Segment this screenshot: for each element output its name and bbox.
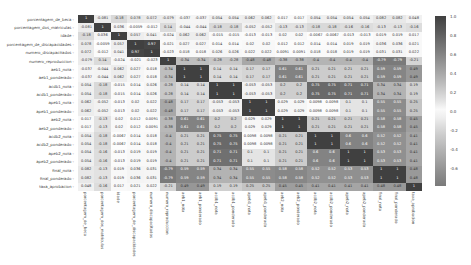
heatmap-cell: -0.013 <box>111 157 127 165</box>
heatmap-cell: 0.02 <box>127 99 143 107</box>
heatmap-cell: 0.17 <box>258 74 274 82</box>
heatmap-cell: -0.13 <box>291 23 307 31</box>
heatmap-cell: 0.52 <box>389 141 405 149</box>
heatmap-cell: 0.21 <box>340 124 356 132</box>
heatmap-cell: 0.61 <box>193 116 209 124</box>
column-label-text: apeb1_ponderado <box>263 192 268 227</box>
heatmap-cell: -0.18 <box>209 23 225 31</box>
heatmap-cell: -0.015 <box>111 90 127 98</box>
heatmap-cell: 0.19 <box>406 82 422 90</box>
heatmap-cell: 1 <box>307 141 323 149</box>
heatmap-cell: 0.59 <box>373 65 389 73</box>
heatmap-cell: 0.41 <box>307 183 323 191</box>
heatmap-cell: 0.0098 <box>324 99 340 107</box>
heatmap-cell: 0.21 <box>340 74 356 82</box>
heatmap-cell: 0.012 <box>275 40 291 48</box>
heatmap-cell: 0.41 <box>340 183 356 191</box>
heatmap-cell: 0.6 <box>340 132 356 140</box>
heatmap-cell: 0.21 <box>275 149 291 157</box>
heatmap-cell: 1 <box>209 82 225 90</box>
heatmap-cell: 0.1 <box>242 157 258 165</box>
heatmap-cell: -0.16 <box>356 23 372 31</box>
heatmap-cell: 0.1 <box>356 107 372 115</box>
column-label: acdb2_ponderado <box>324 192 340 262</box>
heatmap-cell: -0.38 <box>291 57 307 65</box>
heatmap-cell: 0.6 <box>340 141 356 149</box>
heatmap-cell: -0.13 <box>94 124 110 132</box>
heatmap-cell: 0.52 <box>307 166 323 174</box>
heatmap-cell: 0.21 <box>193 149 209 157</box>
heatmap-cell: 1 <box>373 166 389 174</box>
heatmap-cell: 0.019 <box>144 157 160 165</box>
heatmap-cell: 0.019 <box>111 166 127 174</box>
heatmap-cell: 0.012 <box>127 124 143 132</box>
heatmap-cell: 0.041 <box>111 49 127 57</box>
heatmap-cell: 0.036 <box>111 23 127 31</box>
heatmap-cell: 0.018 <box>144 65 160 73</box>
heatmap-cell: 0.022 <box>258 49 274 57</box>
heatmap-cell: 0.014 <box>127 132 143 140</box>
heatmap-cell: 0.59 <box>193 174 209 182</box>
heatmap-cell: 1 <box>160 57 176 65</box>
heatmap-cell: 0.022 <box>144 107 160 115</box>
heatmap-cell: 0.078 <box>78 40 94 48</box>
heatmap-cell: -0.48 <box>160 99 176 107</box>
heatmap-cell: 0.34 <box>373 82 389 90</box>
heatmap-cell: -0.013 <box>111 107 127 115</box>
column-label-text: acdb2_nota <box>313 192 318 215</box>
heatmap-cell: 0.019 <box>340 40 356 48</box>
correlation-heatmap: 1-0.081-0.180.0780.072-0.079-0.037-0.037… <box>78 15 422 191</box>
heatmap-cell: -0.28 <box>160 82 176 90</box>
heatmap-cell: -0.38 <box>275 57 291 65</box>
heatmap-cell: -0.052 <box>94 107 110 115</box>
heatmap-cell: -0.13 <box>389 23 405 31</box>
heatmap-cell: 0.71 <box>209 157 225 165</box>
heatmap-cell: 1 <box>373 174 389 182</box>
heatmap-cell: -0.079 <box>160 15 176 23</box>
heatmap-cell: -0.38 <box>160 116 176 124</box>
heatmap-cell: 0.58 <box>389 116 405 124</box>
column-label-text: porcentagem_dos_matriculas <box>100 192 105 249</box>
heatmap-cell: 0.014 <box>127 90 143 98</box>
heatmap-cell: -0.0067 <box>111 132 127 140</box>
heatmap-cell: 0.022 <box>144 183 160 191</box>
heatmap-cell: 0.55 <box>242 166 258 174</box>
heatmap-cell: 0.019 <box>111 174 127 182</box>
heatmap-cell: -0.079 <box>78 57 94 65</box>
heatmap-cell: 0.34 <box>209 166 225 174</box>
column-label: idade <box>111 192 127 262</box>
row-label: final_ponderado - <box>0 174 76 182</box>
heatmap-cell: 0.17 <box>176 99 192 107</box>
heatmap-cell: -0.024 <box>160 32 176 40</box>
heatmap-cell: 0.054 <box>78 157 94 165</box>
heatmap-cell: -0.023 <box>144 57 160 65</box>
heatmap-cell: 0.14 <box>176 82 192 90</box>
heatmap-cell: -0.79 <box>160 166 176 174</box>
column-label: aeb1_nota <box>176 192 192 262</box>
heatmap-cell: 0.029 <box>291 107 307 115</box>
heatmap-cell: 0.082 <box>78 166 94 174</box>
column-label: apeb1_ponderado <box>258 192 274 262</box>
heatmap-cell: 0.026 <box>144 90 160 98</box>
heatmap-cell: -0.28 <box>209 57 225 65</box>
heatmap-cell: 0.21 <box>176 157 192 165</box>
heatmap-cell: 0.21 <box>291 141 307 149</box>
heatmap-cell: 0.054 <box>78 141 94 149</box>
heatmap-cell: 0.55 <box>373 99 389 107</box>
heatmap-cell: -0.044 <box>94 65 110 73</box>
heatmap-cell: 0.027 <box>127 65 143 73</box>
heatmap-cell: 0.14 <box>225 65 241 73</box>
heatmap-cell: 0.02 <box>127 107 143 115</box>
heatmap-cell: 0.19 <box>406 90 422 98</box>
heatmap-cell: 0.55 <box>389 99 405 107</box>
heatmap-cell: 0.14 <box>94 57 110 65</box>
heatmap-cell: 0.21 <box>275 132 291 140</box>
heatmap-cell: 0.25 <box>406 107 422 115</box>
heatmap-cell: 0.019 <box>356 40 372 48</box>
heatmap-cell: 0.17 <box>176 107 192 115</box>
heatmap-cell: 0.21 <box>193 157 209 165</box>
heatmap-cell: 0.019 <box>356 49 372 57</box>
heatmap-cell: 0.2 <box>275 90 291 98</box>
heatmap-cell: 0.078 <box>127 15 143 23</box>
heatmap-cell: -0.0067 <box>307 32 323 40</box>
